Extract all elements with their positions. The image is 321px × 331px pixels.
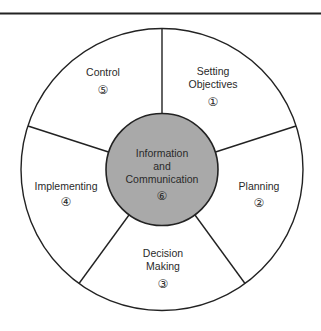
segment-4-number: ④ — [61, 195, 72, 209]
segment-2-number: ② — [254, 196, 265, 210]
center-number: ⑥ — [157, 189, 168, 203]
center-line-1: Information — [136, 147, 189, 159]
management-cycle-diagram: Information and Communication ⑥ Setting … — [0, 0, 321, 331]
segment-1-number: ① — [208, 95, 219, 109]
center-line-3: Communication — [126, 173, 199, 185]
segment-5-line-1: Control — [86, 66, 120, 78]
segment-3-line-2: Making — [146, 260, 180, 272]
center-line-2: and — [153, 160, 171, 172]
segment-5-number: ⑤ — [98, 83, 109, 97]
segment-3-number: ③ — [158, 277, 169, 291]
segment-4-line-1: Implementing — [34, 180, 97, 192]
segment-1-line-1: Setting — [197, 65, 230, 77]
segment-1-line-2: Objectives — [188, 78, 237, 90]
segment-3-line-1: Decision — [143, 247, 183, 259]
segment-2-line-1: Planning — [239, 180, 280, 192]
